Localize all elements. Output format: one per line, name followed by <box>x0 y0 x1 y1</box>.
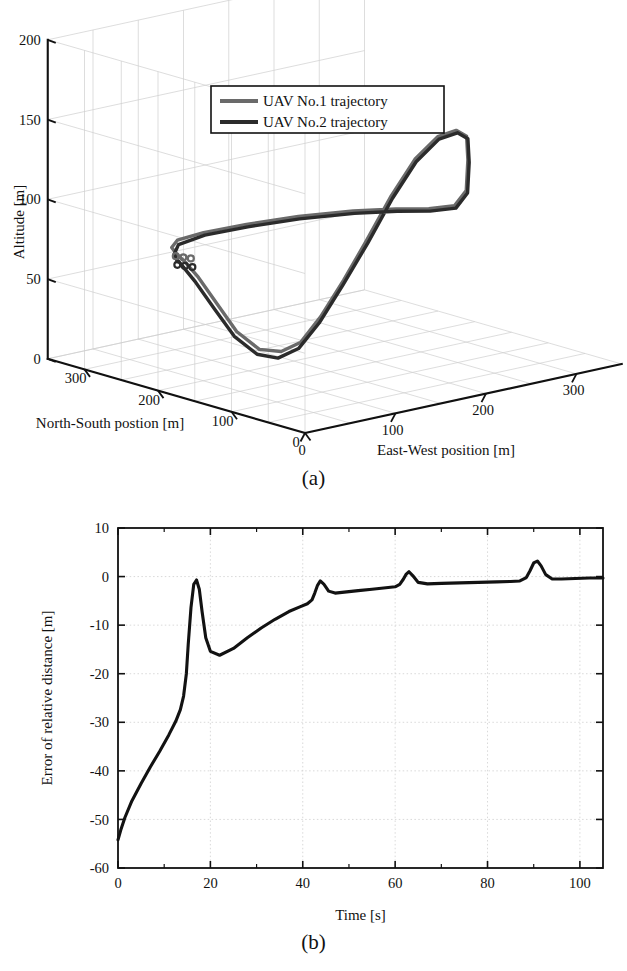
trajectory-start-marker <box>189 264 195 270</box>
legend-3d: UAV No.1 trajectoryUAV No.2 trajectory <box>211 86 444 133</box>
axis-title-time: Time [s] <box>335 907 386 923</box>
svg-text:300: 300 <box>65 370 87 386</box>
axis-title-north-south: North-South postion [m] <box>36 415 184 431</box>
legend-label-uav-1: UAV No.1 trajectory <box>263 93 388 109</box>
plot-frame <box>118 528 603 868</box>
svg-text:300: 300 <box>563 382 585 398</box>
y-tick-label: 0 <box>102 569 109 585</box>
x-tick-label: 100 <box>569 875 591 891</box>
svg-text:100: 100 <box>382 422 404 438</box>
caption-b: (b) <box>0 930 627 955</box>
svg-text:100: 100 <box>212 413 234 429</box>
x-tick-label: 20 <box>203 875 218 891</box>
x-tick-label: 0 <box>114 875 121 891</box>
svg-text:200: 200 <box>19 32 41 48</box>
caption-a: (a) <box>0 466 627 491</box>
x-tick-label: 80 <box>480 875 495 891</box>
svg-text:200: 200 <box>472 402 494 418</box>
svg-text:0: 0 <box>34 351 41 367</box>
x-tick-label: 40 <box>296 875 311 891</box>
chart-3d-trajectory: 01002003000100200300050100150200East-Wes… <box>0 0 627 510</box>
axis-title-altitude: Altitude [m] <box>11 185 27 260</box>
panel-relative-distance-error: 020406080100100-10-20-30-40-50-60Time [s… <box>0 500 627 971</box>
y-tick-label: -40 <box>90 763 109 779</box>
trajectory-start-marker <box>188 255 194 261</box>
svg-text:0: 0 <box>292 434 299 450</box>
trajectory-line-uav-2 <box>174 133 469 358</box>
axis-title-east-west: East-West position [m] <box>377 442 515 458</box>
y-tick-label: -60 <box>90 860 109 876</box>
x-tick-label: 60 <box>388 875 403 891</box>
panel-uav-trajectory-3d: 01002003000100200300050100150200East-Wes… <box>0 0 627 510</box>
error-curve <box>118 561 603 840</box>
figure-container: 01002003000100200300050100150200East-Wes… <box>0 0 627 971</box>
svg-text:150: 150 <box>19 112 41 128</box>
axis-title-error: Error of relative distance [m] <box>39 611 55 786</box>
y-tick-label: -20 <box>90 666 109 682</box>
trajectory-start-marker <box>174 262 180 268</box>
svg-text:50: 50 <box>26 271 41 287</box>
chart-error-relative-distance: 020406080100100-10-20-30-40-50-60Time [s… <box>0 500 627 971</box>
svg-text:200: 200 <box>138 392 160 408</box>
y-tick-label: -30 <box>90 714 109 730</box>
trajectory-start-marker <box>182 263 188 269</box>
y-tick-label: -50 <box>90 812 109 828</box>
y-tick-label: -10 <box>90 617 109 633</box>
y-tick-label: 10 <box>95 520 110 536</box>
trajectory-line-uav-1 <box>172 130 468 351</box>
legend-label-uav-2: UAV No.2 trajectory <box>263 114 388 130</box>
